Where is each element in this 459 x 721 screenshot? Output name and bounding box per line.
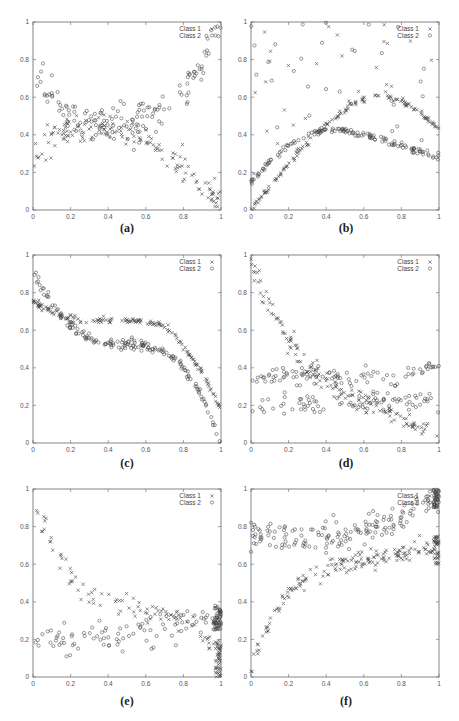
cross-marker-icon xyxy=(390,85,393,88)
x-tick-label: 0.2 xyxy=(66,213,75,220)
circle-marker-icon xyxy=(382,378,385,381)
circle-marker-icon xyxy=(135,115,138,118)
cross-marker-icon xyxy=(70,571,73,574)
cross-marker-icon xyxy=(428,121,431,124)
cross-marker-icon xyxy=(184,171,187,174)
cross-marker-icon xyxy=(430,59,433,62)
y-tick-label: 0.2 xyxy=(20,636,29,643)
circle-marker-icon xyxy=(370,374,373,377)
circle-marker-icon xyxy=(425,509,428,512)
y-tick-label: 0.4 xyxy=(238,131,247,138)
circle-marker-icon xyxy=(256,376,259,379)
circle-marker-icon xyxy=(102,637,105,640)
cross-marker-icon xyxy=(199,635,202,638)
circle-marker-icon xyxy=(267,525,270,528)
circle-marker-icon xyxy=(345,371,348,374)
circle-marker-icon xyxy=(255,73,258,76)
circle-marker-icon xyxy=(46,630,49,633)
circle-marker-icon xyxy=(287,545,290,548)
circle-marker-icon xyxy=(264,380,267,383)
circle-marker-icon xyxy=(71,105,74,108)
y-tick-label: 0.6 xyxy=(20,327,29,334)
circle-marker-icon xyxy=(388,404,391,407)
cross-marker-icon xyxy=(171,156,174,159)
cross-marker-icon xyxy=(154,146,157,149)
cross-marker-icon xyxy=(286,594,289,597)
x-tick-label: 0 xyxy=(249,213,253,220)
cross-marker-icon xyxy=(156,609,159,612)
cross-marker-icon xyxy=(293,344,296,347)
cross-marker-icon xyxy=(374,564,377,567)
circle-marker-icon xyxy=(412,507,415,510)
circle-marker-icon xyxy=(409,509,412,512)
plot-frame xyxy=(33,489,221,677)
cross-marker-icon xyxy=(207,196,210,199)
cross-marker-icon xyxy=(292,587,295,590)
circle-marker-icon xyxy=(283,395,286,398)
cross-marker-icon xyxy=(169,613,172,616)
circle-marker-icon xyxy=(353,49,356,52)
data-points xyxy=(32,271,221,443)
cross-marker-icon xyxy=(204,181,207,184)
plot-area-f: 00.20.40.60.8100.20.40.60.81Class 1Class… xyxy=(218,467,459,687)
circle-marker-icon xyxy=(252,542,255,545)
cross-marker-icon xyxy=(338,110,341,113)
circle-marker-icon xyxy=(372,509,375,512)
plot-frame xyxy=(251,22,439,210)
circle-marker-icon xyxy=(422,67,425,70)
circle-marker-icon xyxy=(335,521,338,524)
circle-marker-icon xyxy=(366,381,369,384)
circle-marker-icon xyxy=(381,140,384,143)
cross-marker-icon xyxy=(390,420,393,423)
circle-marker-icon xyxy=(273,379,276,382)
circle-marker-icon xyxy=(340,381,343,384)
circle-marker-icon xyxy=(358,395,361,398)
cross-marker-icon xyxy=(271,303,274,306)
cross-marker-icon xyxy=(413,548,416,551)
cross-marker-icon xyxy=(326,385,329,388)
circle-marker-icon xyxy=(304,408,307,411)
cross-marker-icon xyxy=(179,617,182,620)
cross-marker-icon xyxy=(117,613,120,616)
cross-marker-icon xyxy=(132,610,135,613)
y-tick-label: 0.8 xyxy=(238,523,247,530)
cross-marker-icon xyxy=(269,616,272,619)
cross-marker-icon xyxy=(435,434,438,437)
cross-marker-icon xyxy=(34,142,37,145)
circle-marker-icon xyxy=(140,115,143,118)
cross-marker-icon xyxy=(426,422,429,425)
cross-marker-icon xyxy=(125,592,128,595)
x-tick-label: 0.4 xyxy=(104,680,113,687)
cross-marker-icon xyxy=(257,649,260,652)
cross-marker-icon xyxy=(266,309,269,312)
circle-marker-icon xyxy=(426,398,429,401)
circle-marker-icon xyxy=(396,383,399,386)
cross-marker-icon xyxy=(152,143,155,146)
cross-marker-icon xyxy=(93,588,96,591)
circle-marker-icon xyxy=(94,124,97,127)
circle-marker-icon xyxy=(396,125,399,128)
cross-marker-icon xyxy=(365,411,368,414)
circle-marker-icon xyxy=(185,94,188,97)
cross-marker-icon xyxy=(372,411,375,414)
plot-area-d: 00.20.40.60.8100.20.40.60.81Class 1Class… xyxy=(218,233,459,453)
circle-marker-icon xyxy=(163,627,166,630)
y-tick-label: 0 xyxy=(25,439,29,446)
circle-marker-icon xyxy=(420,139,423,142)
circle-marker-icon xyxy=(305,373,308,376)
cross-marker-icon xyxy=(184,157,187,160)
circle-marker-icon xyxy=(389,383,392,386)
cross-marker-icon xyxy=(267,185,270,188)
x-tick-label: 0.4 xyxy=(322,446,331,453)
circle-marker-icon xyxy=(50,74,53,77)
cross-marker-icon xyxy=(269,50,272,53)
circle-marker-icon xyxy=(428,34,431,37)
circle-marker-icon xyxy=(49,641,52,644)
circle-marker-icon xyxy=(338,90,341,93)
cross-marker-icon xyxy=(107,593,110,596)
circle-marker-icon xyxy=(141,102,144,105)
cross-marker-icon xyxy=(65,130,68,133)
circle-marker-icon xyxy=(280,404,283,407)
cross-marker-icon xyxy=(434,561,437,564)
cross-marker-icon xyxy=(97,116,100,119)
